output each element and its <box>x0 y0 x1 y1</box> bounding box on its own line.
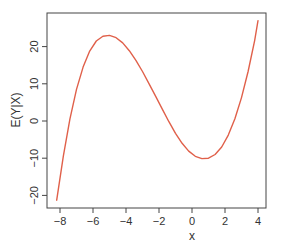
plot-frame <box>47 13 266 208</box>
y-axis-title: E(Y|X) <box>9 92 23 127</box>
x-axis-title: x <box>189 229 195 243</box>
x-tick-label: −8 <box>54 215 67 227</box>
x-tick-label: 4 <box>255 215 261 227</box>
y-axis: −20−1001020 <box>28 40 47 204</box>
x-axis: −8−6−4−2024 <box>54 208 261 227</box>
x-tick-label: −6 <box>87 215 100 227</box>
y-tick-label: −20 <box>28 186 40 205</box>
x-tick-label: −4 <box>120 215 133 227</box>
chart: −8−6−4−2024 −20−1001020 x E(Y|X) <box>0 0 281 246</box>
y-tick-label: 0 <box>28 118 40 124</box>
y-tick-label: −10 <box>28 149 40 168</box>
series-line <box>57 21 258 201</box>
y-tick-label: 10 <box>28 78 40 90</box>
x-tick-label: 0 <box>189 215 195 227</box>
y-tick-label: 20 <box>28 40 40 52</box>
x-tick-label: −2 <box>153 215 166 227</box>
x-tick-label: 2 <box>222 215 228 227</box>
